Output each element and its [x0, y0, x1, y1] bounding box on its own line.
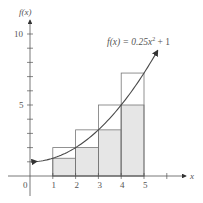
- x-tick-5: 5: [143, 180, 148, 190]
- lower-rectangle: [98, 130, 121, 176]
- x-tick-4: 4: [120, 180, 125, 190]
- x-axis-label: x: [189, 171, 194, 181]
- x-tick-2: 2: [75, 180, 80, 190]
- x-tick-3: 3: [98, 180, 103, 190]
- riemann-sum-chart: f(x) x 0 1 2 3 4 5 5 10 f(x) = 0.25x2 + …: [0, 0, 203, 203]
- y-tick-10: 10: [14, 29, 24, 39]
- y-tick-5: 5: [19, 100, 24, 110]
- x-tick-1: 1: [52, 180, 57, 190]
- lower-rectangle: [76, 148, 99, 176]
- lower-rectangle: [121, 105, 144, 176]
- rectangles: [53, 73, 144, 176]
- y-axis-label: f(x): [19, 7, 32, 17]
- lower-rectangle: [53, 158, 76, 176]
- origin-label: 0: [23, 180, 28, 190]
- function-label: f(x) = 0.25x2 + 1: [107, 36, 170, 48]
